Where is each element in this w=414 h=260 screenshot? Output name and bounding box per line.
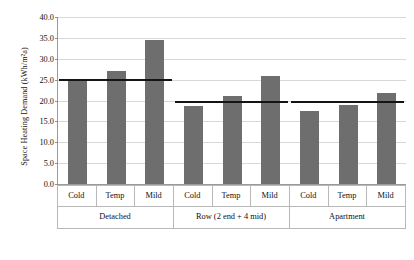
x-tick-label: Cold: [173, 185, 212, 206]
x-tick-label: Cold: [289, 185, 328, 206]
gridline: [58, 38, 406, 39]
group-label-row: DetachedRow (2 end + 4 mid)Apartment: [57, 206, 406, 228]
y-tick-mark: [55, 121, 58, 122]
group-separator: [173, 206, 174, 228]
y-tick-mark: [55, 38, 58, 39]
group-separator: [57, 206, 58, 228]
category-separator: [173, 185, 174, 206]
x-tick-label: Temp: [96, 185, 135, 206]
y-tick-label: 0.0: [44, 180, 54, 189]
y-tick-label: 35.0: [39, 33, 54, 42]
category-separator: [134, 185, 135, 206]
x-tick-label: Mild: [250, 185, 289, 206]
y-tick-mark: [55, 17, 58, 18]
y-tick-mark: [55, 101, 58, 102]
bar: [68, 81, 87, 184]
y-tick-mark: [55, 59, 58, 60]
bar: [223, 96, 242, 185]
y-tick-mark: [55, 163, 58, 164]
category-separator: [212, 185, 213, 206]
axis-divider-bottom: [57, 228, 406, 229]
x-tick-label: Mild: [366, 185, 405, 206]
plot-area: 0.05.010.015.020.025.030.035.040.0: [57, 17, 406, 185]
x-tick-label: Mild: [134, 185, 173, 206]
group-separator: [289, 206, 290, 228]
bar: [261, 76, 280, 184]
y-tick-label: 10.0: [39, 138, 54, 147]
reference-line: [291, 101, 404, 103]
reference-line: [175, 101, 288, 103]
category-separator: [328, 185, 329, 206]
y-tick-label: 15.0: [39, 117, 54, 126]
category-separator: [250, 185, 251, 206]
y-tick-label: 25.0: [39, 75, 54, 84]
chart-figure: Space Heating Demand (kWh/m²a) 0.05.010.…: [0, 0, 414, 260]
category-separator: [366, 185, 367, 206]
y-tick-label: 40.0: [39, 13, 54, 22]
y-tick-mark: [55, 80, 58, 81]
group-label: Apartment: [289, 206, 405, 228]
gridline: [58, 17, 406, 18]
y-tick-mark: [55, 142, 58, 143]
bar: [300, 111, 319, 184]
bar: [107, 71, 126, 184]
bar: [377, 93, 396, 184]
reference-line: [59, 79, 172, 81]
gridline: [58, 59, 406, 60]
x-tick-label: Cold: [57, 185, 96, 206]
x-tick-label: Temp: [212, 185, 251, 206]
bar: [339, 105, 358, 184]
y-tick-label: 5.0: [44, 159, 54, 168]
category-separator: [405, 185, 406, 206]
category-tick-row: ColdTempMildColdTempMildColdTempMild: [57, 185, 406, 206]
y-axis-title: Space Heating Demand (kWh/m²a): [20, 23, 29, 191]
group-separator: [405, 206, 406, 228]
bar: [145, 40, 164, 184]
category-separator: [289, 185, 290, 206]
category-separator: [96, 185, 97, 206]
x-tick-label: Temp: [328, 185, 367, 206]
bar: [184, 106, 203, 184]
y-tick-label: 20.0: [39, 96, 54, 105]
group-label: Row (2 end + 4 mid): [173, 206, 289, 228]
category-separator: [57, 185, 58, 206]
group-label: Detached: [57, 206, 173, 228]
y-tick-label: 30.0: [39, 54, 54, 63]
